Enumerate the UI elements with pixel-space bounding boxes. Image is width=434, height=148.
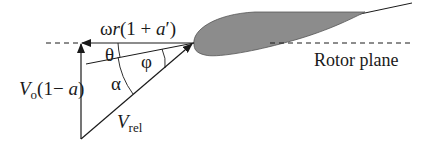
rotor-plane-label: Rotor plane [314,51,398,69]
axial-open-paren: (1− [37,78,68,99]
theta-arc [118,43,120,57]
velocity-triangle-diagram [0,0,434,148]
tangential-close-paren: ′) [165,18,175,39]
tangential-open-paren: (1 + [120,18,156,39]
theta-label: θ [105,45,114,64]
relative-subscript: rel [129,120,143,135]
omega-symbol: ω [100,18,113,39]
axial-induction-symbol: a [68,78,78,99]
axial-velocity-label: Vo(1− a) [19,79,84,101]
axial-close-paren: ) [78,78,84,99]
radius-symbol: r [113,18,120,39]
phi-label: φ [141,52,152,71]
alpha-label: α [111,74,121,93]
phi-arc [162,49,165,68]
chord-line [86,43,194,64]
tangential-velocity-label: ωr(1 + a′) [100,19,176,38]
airfoil-trailing-line [360,3,412,14]
relative-velocity-label: Vrel [117,112,142,134]
relative-v-symbol: V [117,111,129,132]
axial-v-symbol: V [19,78,31,99]
